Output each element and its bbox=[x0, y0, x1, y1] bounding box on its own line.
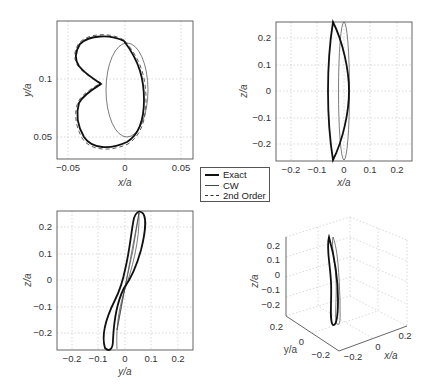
x-tick: 0 bbox=[375, 341, 380, 352]
z-tick: −0.1 bbox=[261, 284, 280, 295]
series-exact bbox=[104, 212, 146, 350]
y-axis-label: y/a bbox=[22, 83, 33, 98]
x-axis-label: x/a bbox=[117, 177, 132, 188]
x-tick: 0.05 bbox=[172, 162, 191, 173]
solid-thick-line-icon bbox=[205, 174, 219, 176]
x-tick: −0.2 bbox=[63, 353, 82, 364]
plot-xz: −0.2 −0.1 0 0.1 0.2 0.2 0.1 0 −0.1 −0.2 … bbox=[238, 22, 412, 188]
x-tick: 0 bbox=[122, 162, 127, 173]
plot-yz: −0.2 −0.1 0 0.1 0.2 0.2 0.1 0 −0.1 −0.2 … bbox=[22, 211, 193, 377]
solid-thin-line-icon bbox=[205, 185, 219, 186]
y-tick: −0.1 bbox=[252, 112, 271, 123]
x-tick: 0.1 bbox=[363, 164, 376, 175]
plot-xyz-3d: 0.2 0.1 0 −0.1 −0.2 z/a 0.2 0 −0.2 y/a −… bbox=[249, 217, 412, 362]
x-tick: 0.2 bbox=[390, 164, 403, 175]
y-tick: 0.1 bbox=[39, 73, 52, 84]
legend: Exact CW 2nd Order bbox=[200, 167, 270, 202]
x-tick: −0.1 bbox=[89, 353, 108, 364]
x-axis-label: y/a bbox=[117, 366, 132, 377]
x-tick: −0.2 bbox=[344, 351, 363, 362]
y-tick: −0.2 bbox=[33, 327, 52, 338]
y-tick: −0.1 bbox=[33, 301, 52, 312]
y-tick: 0 bbox=[266, 85, 271, 96]
x-axis-label: x/a bbox=[336, 177, 351, 188]
x-tick: 0 bbox=[122, 353, 127, 364]
y-axis-label: y/a bbox=[284, 344, 298, 355]
z-tick: 0.2 bbox=[267, 240, 280, 251]
z-tick: −0.2 bbox=[261, 299, 280, 310]
series-2nd-order bbox=[75, 35, 146, 149]
y-tick: 0.1 bbox=[39, 248, 52, 259]
x-tick: 0.2 bbox=[398, 330, 411, 341]
y-tick: 0.1 bbox=[258, 59, 271, 70]
x-tick: 0.1 bbox=[144, 353, 157, 364]
y-axis-label: z/a bbox=[238, 84, 249, 99]
x-axis-label: x/a bbox=[383, 350, 398, 361]
y-tick: 0 bbox=[47, 274, 52, 285]
y-tick: 0.2 bbox=[258, 32, 271, 43]
x-tick: 0.2 bbox=[171, 353, 184, 364]
y-tick: 0.05 bbox=[34, 131, 53, 142]
x-tick: −0.2 bbox=[282, 164, 301, 175]
y-tick: 0 bbox=[299, 336, 304, 347]
y-tick: 0.2 bbox=[39, 221, 52, 232]
z-tick: 0.1 bbox=[267, 254, 280, 265]
y-tick: 0.2 bbox=[270, 321, 283, 332]
y-tick: −0.2 bbox=[311, 349, 330, 360]
plot-xy: −0.05 0 0.05 0.05 0.1 x/a y/a bbox=[22, 21, 193, 188]
x-tick: −0.05 bbox=[56, 162, 80, 173]
x-tick: −0.1 bbox=[308, 164, 327, 175]
y-axis-label: z/a bbox=[22, 273, 33, 288]
z-axis-label: z/a bbox=[249, 274, 260, 289]
y-tick: −0.2 bbox=[252, 138, 271, 149]
z-tick: 0 bbox=[275, 269, 280, 280]
dashed-line-icon bbox=[205, 195, 219, 196]
x-tick: 0 bbox=[341, 164, 346, 175]
